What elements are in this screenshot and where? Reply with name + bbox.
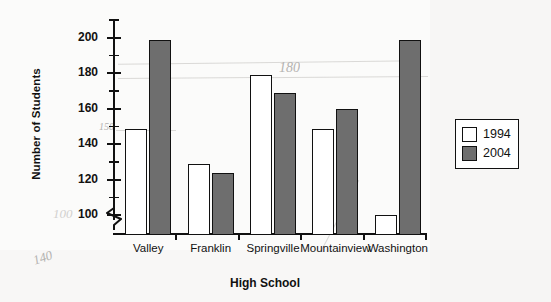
x-axis-title: High School [110, 276, 420, 290]
plot-area: 100120140160180200 ValleyFranklinSpringv… [113, 20, 425, 235]
bar-springville-2004 [274, 93, 296, 235]
y-tick-major: 100 [107, 214, 121, 216]
y-tick-label: 180 [78, 65, 98, 79]
pencil-annotation-140: 140 [31, 247, 54, 268]
y-tick-label: 100 [78, 207, 98, 221]
bar-franklin-1994 [188, 164, 210, 235]
x-tick [175, 233, 177, 240]
x-tick [238, 233, 240, 240]
x-tick [425, 233, 427, 240]
y-tick-minor [109, 55, 119, 57]
y-tick-minor [109, 126, 119, 128]
y-tick-major: 140 [107, 143, 121, 145]
axis-break-icon [104, 204, 124, 230]
y-tick-label: 160 [78, 101, 98, 115]
legend-item-1994[interactable]: 1994 [462, 125, 511, 144]
x-axis-label-mountainview: Mountainview [300, 242, 370, 254]
x-tick [300, 233, 302, 240]
legend-label-1994: 1994 [483, 128, 511, 141]
y-axis-line [113, 20, 115, 220]
bar-chart: 150 180 100 140 Number of Students High … [0, 0, 551, 302]
bar-washington-2004 [399, 40, 421, 235]
legend: 1994 2004 [455, 119, 519, 169]
bar-mountainview-2004 [336, 109, 358, 235]
bar-mountainview-1994 [312, 129, 334, 236]
x-axis-label-washington: Washington [368, 242, 428, 254]
bar-washington-1994 [375, 215, 397, 235]
y-tick-major: 160 [107, 108, 121, 110]
x-axis-label-franklin: Franklin [190, 242, 231, 254]
legend-item-2004[interactable]: 2004 [462, 144, 511, 163]
bar-valley-2004 [149, 40, 171, 235]
y-tick-minor [109, 197, 119, 199]
pencil-annotation-100: 100 [53, 206, 73, 222]
x-axis-label-valley: Valley [133, 242, 163, 254]
bar-valley-1994 [125, 129, 147, 236]
legend-swatch-1994-icon [462, 127, 477, 142]
x-axis-label-springville: Springville [246, 242, 299, 254]
y-tick-major: 180 [107, 72, 121, 74]
y-tick-label: 120 [78, 172, 98, 186]
y-tick-label: 140 [78, 136, 98, 150]
bar-franklin-2004 [212, 173, 234, 235]
y-tick-minor [109, 90, 119, 92]
legend-swatch-2004-icon [462, 146, 477, 161]
y-tick-label: 200 [78, 30, 98, 44]
y-tick-minor [109, 19, 119, 21]
y-tick-major: 120 [107, 179, 121, 181]
legend-label-2004: 2004 [483, 147, 511, 160]
y-tick-minor [109, 161, 119, 163]
x-tick [363, 233, 365, 240]
bar-springville-1994 [250, 75, 272, 235]
y-axis-title: Number of Students [30, 44, 42, 204]
y-tick-major: 200 [107, 37, 121, 39]
